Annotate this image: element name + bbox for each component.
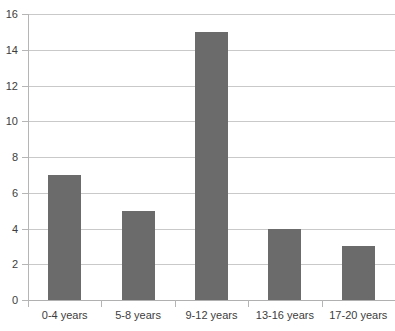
x-axis-tick <box>322 300 323 307</box>
y-axis-tick <box>22 264 28 265</box>
x-axis-tick <box>28 300 29 307</box>
y-axis-tick <box>22 121 28 122</box>
y-axis-tick-label: 2 <box>0 259 18 270</box>
y-axis-line <box>28 14 29 301</box>
x-axis-tick <box>175 300 176 307</box>
y-axis-tick-label: 12 <box>0 81 18 92</box>
y-axis-tick-label: 6 <box>0 188 18 199</box>
gridline <box>28 300 395 301</box>
bar <box>195 32 228 300</box>
y-axis-tick <box>22 229 28 230</box>
y-axis-tick-label: 0 <box>0 295 18 306</box>
bar-chart: 0246810121416 0-4 years5-8 years9-12 yea… <box>0 0 395 331</box>
x-axis-tick-label: 0-4 years <box>28 309 101 321</box>
x-axis-tick <box>248 300 249 307</box>
bar <box>122 211 155 300</box>
bar <box>48 175 81 300</box>
x-axis-tick <box>101 300 102 307</box>
plot-area <box>28 14 395 300</box>
y-axis-tick <box>22 157 28 158</box>
y-axis-tick-label: 4 <box>0 224 18 235</box>
y-axis-tick-label: 8 <box>0 152 18 163</box>
y-axis-tick-label: 10 <box>0 116 18 127</box>
bar <box>342 246 375 300</box>
y-axis-tick <box>22 14 28 15</box>
x-axis-tick-label: 13-16 years <box>248 309 321 321</box>
y-axis-tick-label: 16 <box>0 9 18 20</box>
y-axis-tick <box>22 193 28 194</box>
gridline <box>28 14 395 15</box>
bar <box>268 229 301 301</box>
x-axis-tick-label: 17-20 years <box>322 309 395 321</box>
y-axis-tick-label: 14 <box>0 45 18 56</box>
y-axis-tick <box>22 50 28 51</box>
y-axis-tick <box>22 86 28 87</box>
x-axis-tick-label: 9-12 years <box>175 309 248 321</box>
x-axis-tick-label: 5-8 years <box>101 309 174 321</box>
